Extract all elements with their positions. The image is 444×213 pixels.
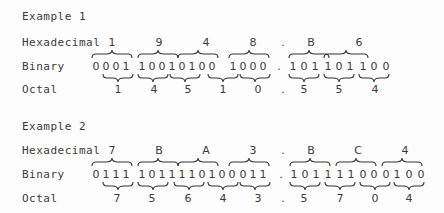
octal-digit: 1: [113, 83, 123, 96]
octal-digit: 1: [218, 83, 228, 96]
binary-digit: 1: [310, 60, 320, 73]
binary-digit: 0: [147, 168, 157, 181]
binary-digit: 1: [311, 168, 321, 181]
binary-digit: 1: [187, 60, 197, 73]
binary-digit: 0: [300, 168, 310, 181]
binary-digit: 0: [157, 60, 167, 73]
binary-digit: 1: [111, 168, 121, 181]
octal-digit: 7: [335, 192, 345, 205]
binary-digit: 1: [121, 60, 131, 73]
octal-digit: 4: [149, 83, 159, 96]
octal-point: .: [278, 192, 288, 205]
binary-digit: 0: [369, 60, 379, 73]
hex-digit: A: [201, 144, 211, 157]
binary-point: .: [274, 60, 284, 73]
octal-digit: 3: [253, 192, 263, 205]
hex-digit: 4: [201, 36, 211, 49]
binary-digit: 0: [358, 168, 368, 181]
octal-digit: 5: [299, 83, 309, 96]
octal-digit: 7: [112, 192, 122, 205]
binary-digit: 0: [416, 168, 426, 181]
example-2-hex-label: Hexadecimal: [22, 144, 100, 157]
octal-digit: 4: [370, 83, 380, 96]
example-1-title: Example 1: [22, 10, 86, 23]
hex-point: .: [278, 36, 288, 49]
hex-point: .: [278, 144, 288, 157]
binary-digit: 1: [346, 168, 356, 181]
binary-digit: 1: [345, 60, 355, 73]
hex-digit: 6: [354, 36, 364, 49]
hex-digit: B: [306, 36, 316, 49]
octal-digit: 5: [147, 192, 157, 205]
hex-digit: C: [353, 144, 363, 157]
hex-digit: 4: [400, 144, 410, 157]
binary-digit: 1: [137, 60, 147, 73]
octal-digit: 0: [370, 192, 380, 205]
example-2-octal-label: Octal: [22, 192, 58, 205]
binary-digit: 1: [258, 168, 268, 181]
octal-digit: 4: [218, 192, 228, 205]
binary-digit: 1: [392, 168, 402, 181]
octal-digit: 5: [183, 83, 193, 96]
octal-point: .: [278, 83, 288, 96]
binary-digit: 1: [335, 168, 345, 181]
binary-digit: 1: [167, 60, 177, 73]
octal-digit: 4: [404, 192, 414, 205]
binary-digit: 1: [137, 168, 147, 181]
hex-digit: 9: [154, 36, 164, 49]
binary-digit: 0: [217, 168, 227, 181]
binary-digit: 0: [197, 168, 207, 181]
binary-digit: 0: [101, 60, 111, 73]
binary-digit: 1: [358, 60, 368, 73]
hex-digit: 8: [248, 36, 258, 49]
octal-digit: 0: [253, 83, 263, 96]
example-1-hex-label: Hexadecimal: [22, 36, 100, 49]
octal-digit: 5: [299, 192, 309, 205]
binary-digit: 0: [207, 60, 217, 73]
example-2-title: Example 2: [22, 120, 86, 133]
binary-digit: 0: [299, 60, 309, 73]
binary-digit: 0: [91, 60, 101, 73]
binary-digit: 0: [177, 60, 187, 73]
binary-digit: 1: [323, 168, 333, 181]
binary-digit: 0: [238, 168, 248, 181]
binary-digit: 1: [248, 168, 258, 181]
binary-digit: 0: [369, 168, 379, 181]
binary-digit: 0: [404, 168, 414, 181]
binary-digit: 0: [238, 60, 248, 73]
binary-digit: 0: [248, 60, 258, 73]
binary-digit: 1: [167, 168, 177, 181]
binary-digit: 0: [381, 60, 391, 73]
binary-digit: 1: [187, 168, 197, 181]
grouping-braces: [0, 0, 444, 213]
hex-digit: 1: [107, 36, 117, 49]
hex-digit: 3: [248, 144, 258, 157]
binary-digit: 0: [111, 60, 121, 73]
binary-digit: 0: [91, 168, 101, 181]
example-1-binary-label: Binary: [22, 60, 65, 73]
binary-digit: 1: [101, 168, 111, 181]
binary-digit: 0: [147, 60, 157, 73]
binary-digit: 0: [197, 60, 207, 73]
binary-digit: 0: [258, 60, 268, 73]
binary-digit: 1: [228, 60, 238, 73]
example-2-binary-label: Binary: [22, 168, 65, 181]
binary-digit: 1: [288, 60, 298, 73]
binary-digit: 1: [177, 168, 187, 181]
binary-digit: 0: [381, 168, 391, 181]
octal-digit: 6: [183, 192, 193, 205]
binary-digit: 1: [207, 168, 217, 181]
binary-digit: 1: [121, 168, 131, 181]
binary-digit: 1: [157, 168, 167, 181]
octal-digit: 5: [334, 83, 344, 96]
example-1-octal-label: Octal: [22, 83, 58, 96]
binary-digit: 1: [323, 60, 333, 73]
hex-digit: B: [154, 144, 164, 157]
hex-digit: B: [306, 144, 316, 157]
binary-digit: 1: [289, 168, 299, 181]
binary-digit: 0: [227, 168, 237, 181]
hex-digit: 7: [107, 144, 117, 157]
binary-point: .: [276, 168, 286, 181]
binary-digit: 0: [334, 60, 344, 73]
